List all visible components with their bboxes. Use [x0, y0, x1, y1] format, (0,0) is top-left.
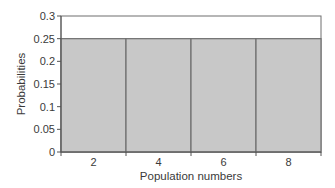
x-tick-label: 8 — [285, 156, 291, 168]
x-tick-label: 2 — [90, 156, 96, 168]
y-tick-label: 0.05 — [34, 123, 55, 135]
bar-4 — [126, 39, 191, 152]
bar-chart: 00.050.10.150.20.250.3 2468 Population n… — [0, 0, 335, 188]
x-tick-label: 6 — [220, 156, 226, 168]
bar-8 — [256, 39, 321, 152]
bars-group — [61, 39, 321, 152]
y-axis-title: Probabilities — [15, 52, 27, 115]
y-tick-label: 0.15 — [34, 78, 55, 90]
y-axis: 00.050.10.150.20.250.3 — [34, 10, 61, 158]
y-tick-label: 0.1 — [40, 101, 55, 113]
bar-2 — [61, 39, 126, 152]
x-tick-label: 4 — [155, 156, 161, 168]
y-tick-label: 0.3 — [40, 10, 55, 22]
y-tick-label: 0.2 — [40, 55, 55, 67]
y-tick-label: 0.25 — [34, 33, 55, 45]
y-tick-label: 0 — [49, 146, 55, 158]
bar-6 — [191, 39, 256, 152]
x-axis: 2468 — [61, 152, 321, 168]
x-axis-title: Population numbers — [140, 170, 243, 182]
